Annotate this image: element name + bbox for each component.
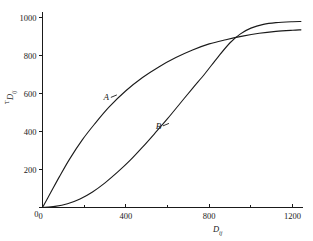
x-tick-label: 0 [38, 211, 42, 221]
svg-text:ij: ij [11, 90, 17, 94]
curve-label-a: A [103, 92, 110, 102]
curve-label-b: B [156, 121, 162, 131]
x-axis-ticks [84, 204, 292, 208]
y-tick-label: 1000 [20, 13, 37, 23]
y-axis-tick-labels: 02004006008001000 [20, 13, 39, 219]
x-tick-label: 1200 [284, 211, 301, 221]
data-curve-a [43, 30, 301, 208]
y-tick-label: 600 [24, 89, 37, 99]
curve-label-b-group: B [156, 121, 169, 131]
x-tick-label: 400 [119, 211, 132, 221]
chart-figure: 02004006008001000 04008001200 A B D ij T… [0, 0, 313, 241]
y-axis-title: T D ij [4, 90, 17, 104]
y-tick-label: 200 [24, 165, 37, 175]
plot-canvas: 02004006008001000 04008001200 A B D ij T… [0, 0, 313, 241]
x-tick-label: 800 [203, 211, 216, 221]
curve-label-a-leader [111, 95, 117, 98]
x-axis-title: D ij [212, 224, 223, 236]
data-curve-b [43, 21, 301, 207]
y-tick-label: 400 [24, 127, 37, 137]
svg-text:ij: ij [219, 230, 223, 236]
x-axis-tick-labels: 04008001200 [38, 211, 301, 221]
y-tick-label: 800 [24, 51, 37, 61]
y-axis-ticks [39, 18, 43, 208]
